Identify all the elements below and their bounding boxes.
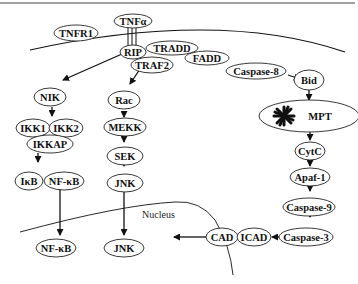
node-cytc: CytC [295, 142, 325, 160]
node-ikb: IκB [15, 172, 43, 190]
svg-text:Bid: Bid [301, 75, 317, 86]
node-tradd: TRADD [146, 41, 198, 55]
node-caspase-8: Caspase-8 [226, 63, 286, 79]
node-jnk-nucleus: JNK [104, 239, 144, 257]
node-caspase-3: Caspase-3 [279, 228, 333, 246]
node-tnfa: TNFα [114, 14, 152, 28]
svg-text:Rac: Rac [115, 95, 133, 106]
svg-text:TRADD: TRADD [153, 43, 191, 54]
svg-text:IKK2: IKK2 [53, 123, 79, 134]
svg-text:Caspase-8: Caspase-8 [233, 66, 279, 77]
svg-text:IκB: IκB [21, 176, 38, 187]
svg-text:RIP: RIP [124, 47, 143, 58]
svg-text:NF-κB: NF-κB [49, 176, 79, 187]
node-nf-kb-nucleus: NF-κB [36, 239, 76, 257]
node-ikk1: IKK1 [16, 119, 50, 137]
node-traf2: TRAF2 [131, 57, 173, 73]
svg-text:IKK1: IKK1 [20, 123, 46, 134]
node-jnk-cytoplasm: JNK [107, 174, 143, 192]
svg-text:ICAD: ICAD [241, 232, 268, 243]
tnf-pathway-diagram: Nucleus TNFα TNFR1 RIP [0, 0, 358, 284]
svg-text:MPT: MPT [308, 111, 331, 122]
node-rip: RIP [120, 45, 146, 59]
svg-text:CAD: CAD [211, 232, 234, 243]
svg-text:Apaf-1: Apaf-1 [295, 172, 326, 183]
svg-text:NIK: NIK [40, 92, 61, 103]
svg-text:JNK: JNK [114, 243, 136, 254]
node-fadd: FADD [185, 51, 229, 65]
svg-text:Caspase-9: Caspase-9 [286, 202, 332, 213]
nuclear-membrane [20, 202, 233, 275]
svg-text:TRAF2: TRAF2 [135, 60, 169, 71]
node-apaf-1: Apaf-1 [290, 168, 330, 186]
svg-text:MEKK: MEKK [108, 122, 142, 133]
mitochondria-icon [274, 107, 294, 125]
svg-text:TNFR1: TNFR1 [59, 28, 93, 39]
node-icad: ICAD [237, 228, 271, 246]
svg-text:Caspase-3: Caspase-3 [283, 232, 329, 243]
svg-text:TNFα: TNFα [120, 16, 147, 27]
node-tnfr1: TNFR1 [54, 25, 98, 41]
node-mekk: MEKK [104, 118, 146, 136]
svg-text:NF-κB: NF-κB [41, 243, 71, 254]
nucleus-label: Nucleus [142, 209, 175, 220]
svg-text:SEK: SEK [114, 151, 136, 162]
svg-text:JNK: JNK [115, 178, 137, 189]
node-mpt: MPT [259, 100, 358, 132]
node-nik: NIK [34, 88, 66, 106]
svg-text:IKKAP: IKKAP [33, 139, 68, 150]
node-ikkap: IKKAP [27, 135, 73, 153]
node-caspase-9: Caspase-9 [283, 198, 335, 216]
node-ikk2: IKK2 [49, 119, 83, 137]
node-cad: CAD [206, 228, 238, 246]
svg-text:FADD: FADD [193, 53, 222, 64]
node-bid: Bid [294, 70, 324, 90]
svg-text:CytC: CytC [298, 146, 322, 157]
node-nf-kb-cytoplasm: NF-κB [44, 172, 84, 190]
node-sek: SEK [107, 147, 143, 165]
node-rac: Rac [108, 91, 140, 109]
